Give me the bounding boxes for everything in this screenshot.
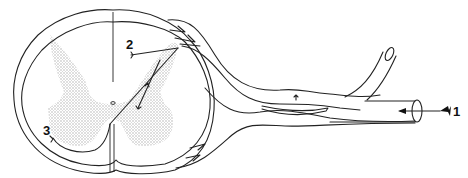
stimulus-source-icon [440, 106, 451, 116]
ventral-median-fissure [110, 124, 114, 172]
label-1: 1 [453, 104, 460, 119]
dorsal-ramus-right [367, 56, 396, 100]
neuron-3-terminal-icon [50, 136, 53, 142]
ventral-root-lower [176, 123, 415, 168]
spinal-cord-diagram: 1 2 3 [0, 0, 468, 178]
cord-white-matter-boundary [22, 22, 211, 166]
dorsal-root-lower [182, 46, 360, 110]
dorsal-root-upper [168, 20, 380, 97]
label-2: 2 [126, 37, 133, 52]
ganglion-marker-icon [294, 95, 298, 100]
dorsal-ramus-cut-end [383, 46, 395, 62]
arrowhead-icon [398, 108, 406, 114]
central-canal [111, 102, 115, 105]
label-3: 3 [43, 123, 50, 138]
dorsal-ramus-left [345, 52, 383, 97]
